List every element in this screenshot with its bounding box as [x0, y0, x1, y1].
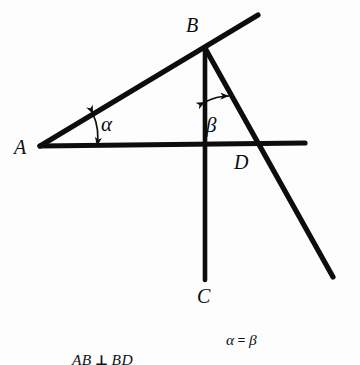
caption-1-lhs: AB: [72, 351, 92, 365]
equality-rhs: β: [249, 331, 257, 348]
equality-lhs: α: [226, 331, 235, 348]
caption-line-ab-perp-bd: AB⊥BD: [72, 350, 134, 365]
geometry-figure: A B C D α β AB⊥BD AD⊥BC α=β: [0, 0, 360, 365]
caption-1-rhs: BD: [112, 351, 133, 365]
diagram-canvas: A B C D α β: [0, 0, 360, 365]
equals-icon: =: [235, 333, 249, 348]
line-BD-extended: [205, 48, 333, 277]
angle-arc-alpha: [93, 114, 98, 146]
perpendicular-icon: ⊥: [92, 353, 112, 365]
angle-label-alpha: α: [101, 112, 113, 136]
angle-label-beta: β: [205, 113, 217, 137]
angle-arc-beta: [205, 96, 229, 102]
vertex-label-B: B: [186, 14, 198, 36]
vertex-label-A: A: [12, 136, 27, 158]
line-AD-horizontal: [40, 143, 305, 146]
caption-angle-equality: α=β: [226, 331, 257, 349]
vertex-label-C: C: [197, 285, 211, 307]
vertex-label-D: D: [233, 151, 249, 173]
caption-perpendicular-conditions: AB⊥BD AD⊥BC: [72, 312, 134, 365]
